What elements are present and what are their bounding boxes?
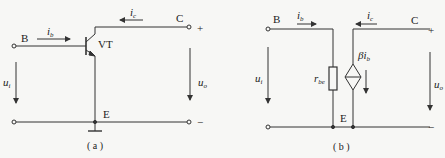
base-wire	[270, 29, 333, 67]
caption-a: ( a )	[87, 140, 103, 152]
terminal-c	[187, 25, 191, 29]
label-e: E	[103, 108, 110, 120]
label-b: B	[21, 32, 28, 44]
label-plus: +	[428, 24, 434, 36]
label-ui: ui	[255, 72, 263, 86]
label-plus: +	[197, 22, 203, 34]
caption-b: ( b )	[333, 141, 350, 153]
figure-a-labels: B C E VT ib ic ui uo + − ( a )	[3, 6, 208, 152]
label-c: C	[176, 12, 183, 24]
label-minus: −	[428, 121, 434, 133]
label-ib: ib	[47, 25, 54, 39]
circuit-diagrams: B C E VT ib ic ui uo + − ( a )	[0, 0, 445, 158]
terminal-b	[266, 27, 270, 31]
label-ic: ic	[130, 6, 137, 20]
junction-dot	[331, 125, 334, 128]
emitter-arrow-icon	[89, 51, 95, 56]
terminal-in-ground	[12, 120, 16, 124]
terminal-out-ground	[187, 120, 191, 124]
label-e: E	[340, 112, 347, 124]
label-vt: VT	[98, 38, 113, 50]
terminal-in-ground	[266, 125, 270, 129]
emitter-wire	[86, 50, 95, 122]
label-b: B	[273, 13, 280, 25]
terminal-b	[12, 44, 16, 48]
label-minus: −	[197, 116, 203, 128]
rbe-resistor	[329, 67, 337, 90]
figure-a	[12, 20, 191, 131]
figure-b	[266, 24, 430, 129]
label-beta-ib: βib	[357, 49, 371, 63]
label-c: C	[411, 14, 418, 26]
label-uo: uo	[434, 78, 444, 92]
label-ib: ib	[297, 9, 304, 23]
junction-dot	[351, 125, 354, 128]
label-ui: ui	[3, 76, 11, 90]
label-ic: ic	[367, 9, 374, 23]
label-rbe: rbe	[314, 72, 325, 86]
label-uo: uo	[198, 76, 208, 90]
